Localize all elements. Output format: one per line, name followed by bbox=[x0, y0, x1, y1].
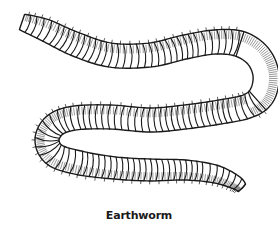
seta-bristle bbox=[46, 165, 48, 167]
seta-bristle bbox=[40, 159, 42, 161]
seta-bristle bbox=[217, 97, 218, 100]
seta-bristle bbox=[40, 119, 42, 121]
caption: Earthworm bbox=[0, 209, 278, 222]
seta-bristle bbox=[264, 111, 266, 113]
seta-bristle bbox=[46, 113, 48, 115]
earthworm-body bbox=[19, 12, 278, 192]
earthworm-illustration bbox=[0, 0, 278, 231]
seta-bristle bbox=[235, 191, 237, 193]
seta-bristle bbox=[233, 190, 235, 192]
